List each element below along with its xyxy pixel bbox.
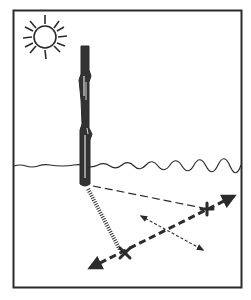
shadow-stick-illustration bbox=[0, 0, 251, 300]
frame bbox=[14, 11, 242, 288]
